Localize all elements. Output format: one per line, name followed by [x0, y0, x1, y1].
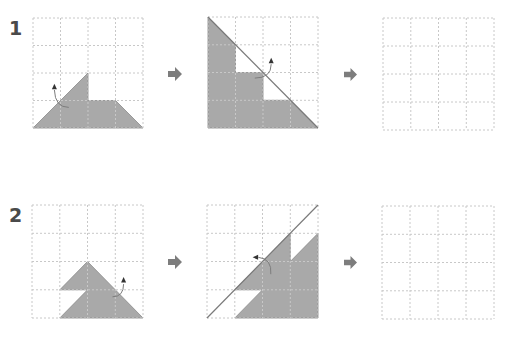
row-label-2: 2 — [9, 206, 22, 225]
arrow-right-icon — [344, 256, 357, 269]
row2-step2-grid — [207, 205, 318, 318]
arrow-right-icon — [168, 67, 182, 81]
row1-step1-grid — [33, 18, 143, 128]
row2-answer-grid[interactable] — [382, 206, 494, 319]
shaded-shape — [235, 233, 318, 318]
grid-lines — [382, 206, 494, 319]
row1-step2-grid — [208, 17, 318, 128]
row1-answer-grid[interactable] — [383, 18, 494, 130]
arrow-right-icon — [168, 255, 182, 269]
row2-step1-grid — [32, 205, 143, 318]
grid-lines — [383, 18, 494, 130]
arrow-right-icon — [344, 68, 357, 81]
row-label-1: 1 — [9, 19, 22, 38]
